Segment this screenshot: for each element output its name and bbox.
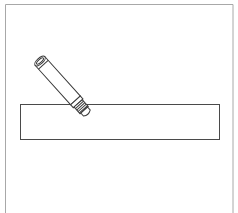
target-plate: [21, 105, 220, 140]
sensor-diagram: [0, 0, 238, 213]
diagram-canvas: [0, 0, 238, 213]
